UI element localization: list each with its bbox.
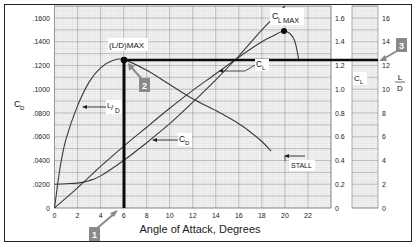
svg-text:14: 14 [212,212,220,219]
svg-text:.0400: .0400 [32,157,50,164]
svg-text:.0600: .0600 [32,133,50,140]
svg-text:.1200: .1200 [32,62,50,69]
svg-text:14: 14 [382,38,390,45]
svg-text:.1400: .1400 [32,38,50,45]
svg-text:L: L [398,73,403,82]
svg-text:22: 22 [304,212,312,219]
cl-axis-title: C L [353,72,367,85]
svg-text:1.0: 1.0 [335,86,345,93]
svg-text:8: 8 [382,110,386,117]
cd-axis-ticks: 0.0200.0400.0600.0800.1000.1200.1400.160… [32,15,50,212]
svg-text:6: 6 [122,212,126,219]
svg-text:12: 12 [189,212,197,219]
svg-text:2: 2 [142,81,147,91]
svg-text:0.6: 0.6 [335,133,345,140]
svg-text:6: 6 [382,133,386,140]
ld-axis-title: L D [395,73,405,93]
label-ld-max: (L/D)MAX [108,38,148,51]
chart-canvas: 0.0200.0400.0600.0800.1000.1200.1400.160… [0,0,419,250]
svg-text:0.4: 0.4 [335,157,345,164]
svg-text:.0200: .0200 [32,181,50,188]
svg-text:D: D [115,107,120,114]
svg-text:0.2: 0.2 [335,181,345,188]
svg-text:4: 4 [99,212,103,219]
svg-text:0: 0 [335,205,339,212]
svg-text:MAX: MAX [283,16,299,25]
svg-text:STALL: STALL [291,162,312,169]
cl-axis-ticks: 00.20.40.60.81.01.21.41.6 [335,15,345,212]
cl-max-point [281,28,287,34]
x-axis-ticks: 0246810121416182022 [53,212,312,219]
svg-text:2: 2 [382,181,386,188]
cl-strip-grid [352,6,378,208]
label-cl-max: C L MAX [270,8,304,25]
x-axis-title: Angle of Attack, Degrees [139,223,261,235]
svg-text:1: 1 [92,230,97,240]
svg-text:.1000: .1000 [32,86,50,93]
callout-1: 1 [89,210,118,241]
svg-text:0: 0 [46,205,50,212]
svg-text:1.6: 1.6 [335,15,345,22]
svg-text:18: 18 [258,212,266,219]
svg-text:D: D [20,105,25,111]
svg-text:2: 2 [76,212,80,219]
svg-text:12: 12 [382,62,390,69]
svg-text:.0800: .0800 [32,110,50,117]
ld-axis-ticks: 0246810121416 [382,15,390,212]
svg-text:3: 3 [399,41,404,51]
svg-text:D: D [397,84,403,93]
svg-text:0: 0 [53,212,57,219]
svg-text:.1600: .1600 [32,15,50,22]
svg-text:D: D [185,140,190,146]
svg-text:(L/D)MAX: (L/D)MAX [109,41,145,50]
svg-text:L: L [360,79,363,85]
svg-text:L: L [278,17,282,24]
cd-axis-title: C D [14,99,25,111]
svg-text:16: 16 [382,15,390,22]
svg-text:10: 10 [382,86,390,93]
svg-text:10: 10 [166,212,174,219]
svg-text:20: 20 [281,212,289,219]
svg-text:0: 0 [382,205,386,212]
svg-text:0.8: 0.8 [335,110,345,117]
svg-text:1.4: 1.4 [335,38,345,45]
svg-text:8: 8 [145,212,149,219]
svg-text:4: 4 [382,157,386,164]
svg-text:16: 16 [235,212,243,219]
svg-text:1.2: 1.2 [335,62,345,69]
